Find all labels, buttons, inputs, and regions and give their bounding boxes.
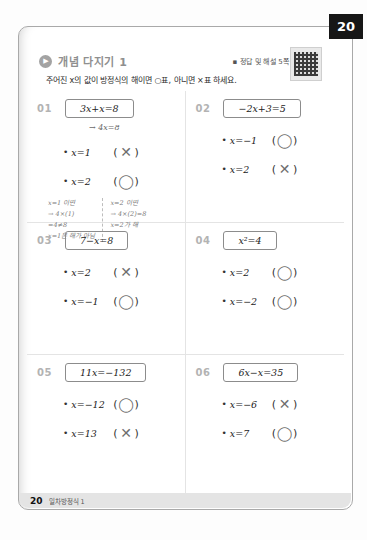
option-row: • x=−1 ( ◯ ): [63, 292, 181, 310]
answer-mark: ◯: [276, 133, 293, 147]
answer-mark: ◯: [118, 397, 135, 411]
option-row: • x=13 ( ✕ ): [63, 424, 181, 442]
problem-header: 06 6x−x=35: [196, 363, 341, 382]
section-title-row: ▶ 개념 다지기 1: [39, 53, 127, 69]
paren-close: ): [293, 266, 297, 279]
paren-close: ): [135, 175, 139, 188]
bullet-icon: •: [63, 147, 68, 157]
paren-close: ): [135, 427, 139, 440]
equation-box: 3x+x=8: [65, 99, 134, 118]
problem-cell-04: 04 x²=4 • x=2 ( ◯ ) • x=−2 ( ◯: [186, 223, 345, 355]
answers-reference-note: ▪ 정답 및 해설 5쪽: [233, 56, 290, 66]
option-row: • x=2 ( ◯ ): [63, 172, 181, 190]
problem-number: 06: [196, 367, 211, 378]
options-list: • x=2 ( ✕ ) • x=−1 ( ◯ ): [63, 263, 181, 310]
option-label: x=2: [71, 176, 113, 187]
bullet-icon: •: [222, 267, 227, 277]
option-row: • x=−1 ( ◯ ): [222, 131, 341, 149]
page-card: ▪ 정답 및 해설 5쪽 ▶ 개념 다지기 1 주어진 x의 값이 방정식의 해…: [18, 26, 353, 510]
option-label: x=1: [71, 147, 113, 158]
options-list: • x=−6 ( ✕ ) • x=7 ( ◯ ): [222, 395, 341, 442]
option-label: x=−6: [230, 399, 272, 410]
equation-box: 6x−x=35: [223, 363, 298, 382]
option-label: x=2: [230, 267, 272, 278]
problem-header: 01 3x+x=8: [37, 99, 181, 118]
answer-mark: ✕: [118, 265, 135, 279]
option-label: x=−1: [71, 296, 113, 307]
problem-header: 03 7−x=8: [37, 231, 181, 250]
bullet-icon: •: [222, 428, 227, 438]
note-line: x=2 이면: [110, 198, 146, 209]
qr-code: [290, 47, 322, 81]
option-label: x=2: [71, 267, 113, 278]
bullet-icon: •: [63, 176, 68, 186]
paren-close: ): [135, 266, 139, 279]
answer-mark: ✕: [118, 145, 135, 159]
answer-mark: ◯: [276, 265, 293, 279]
workbook-page: 20 ▪ 정답 및 해설 5쪽 ▶ 개념 다지기 1 주어진 x의 값이 방정식…: [0, 0, 367, 540]
note-line: x=1 이면: [48, 198, 95, 209]
options-list: • x=−1 ( ◯ ) • x=2 ( ✕ ): [222, 131, 341, 178]
paren-close: ): [135, 398, 139, 411]
work-note: → 4x=8: [89, 123, 181, 132]
answer-mark: ✕: [276, 162, 293, 176]
options-list: • x=1 ( ✕ ) • x=2 ( ◯ ): [63, 143, 181, 190]
equation-box: −2x+3=5: [223, 99, 300, 118]
paren-close: ): [135, 295, 139, 308]
option-row: • x=7 ( ◯ ): [222, 424, 341, 442]
problem-cell-06: 06 6x−x=35 • x=−6 ( ✕ ) • x=7 (: [186, 355, 345, 493]
problem-cell-05: 05 11x=−132 • x=−12 ( ◯ ) • x=13 (: [27, 355, 186, 493]
bullet-icon: •: [222, 296, 227, 306]
footer-chapter-title: 일차방정식 1: [49, 496, 85, 506]
page-corner-tab: 20: [329, 14, 363, 39]
section-title: 개념 다지기 1: [58, 53, 127, 69]
bullet-icon: •: [63, 428, 68, 438]
problem-number: 02: [196, 103, 211, 114]
paren-close: ): [293, 427, 297, 440]
options-list: • x=−12 ( ◯ ) • x=13 ( ✕ ): [63, 395, 181, 442]
option-label: x=−12: [71, 399, 113, 410]
qr-pattern: [294, 52, 318, 76]
instruction-text: 주어진 x의 값이 방정식의 해이면 ○표, 아니면 ×표 하세요.: [46, 74, 237, 85]
answer-mark: ◯: [118, 174, 135, 188]
problem-number: 05: [37, 367, 52, 378]
option-label: x=−2: [230, 296, 272, 307]
option-row: • x=2 ( ◯ ): [222, 263, 341, 281]
answer-mark: ◯: [276, 426, 293, 440]
play-icon: ▶: [39, 55, 52, 68]
option-row: • x=2 ( ✕ ): [63, 263, 181, 281]
option-row: • x=−2 ( ◯ ): [222, 292, 341, 310]
option-label: x=13: [71, 428, 113, 439]
problems-grid: 01 3x+x=8 → 4x=8 • x=1 ( ✕ ) • x=2: [27, 91, 344, 493]
footer-page-number: 20: [30, 496, 43, 506]
problem-number: 03: [37, 235, 52, 246]
note-line: → 4×(1): [48, 209, 95, 220]
bullet-icon: •: [63, 267, 68, 277]
bullet-icon: •: [63, 296, 68, 306]
equation-box: x²=4: [223, 231, 276, 250]
equation-box: 7−x=8: [65, 231, 128, 250]
problem-number: 04: [196, 235, 211, 246]
paren-close: ): [293, 295, 297, 308]
problem-cell-03: 03 7−x=8 • x=2 ( ✕ ) • x=−1 ( ◯: [27, 223, 186, 355]
option-label: x=7: [230, 428, 272, 439]
bullet-icon: •: [222, 135, 227, 145]
answer-mark: ◯: [118, 294, 135, 308]
problem-header: 04 x²=4: [196, 231, 341, 250]
note-line: → 4×(2)=8: [110, 209, 146, 220]
answer-mark: ✕: [118, 426, 135, 440]
page-footer: 20 일차방정식 1: [20, 493, 351, 508]
problem-header: 02 −2x+3=5: [196, 99, 341, 118]
answer-mark: ✕: [276, 397, 293, 411]
option-row: • x=−12 ( ◯ ): [63, 395, 181, 413]
problem-cell-01: 01 3x+x=8 → 4x=8 • x=1 ( ✕ ) • x=2: [27, 91, 186, 223]
paren-close: ): [135, 146, 139, 159]
option-row: • x=−6 ( ✕ ): [222, 395, 341, 413]
paren-close: ): [293, 134, 297, 147]
bullet-icon: •: [222, 399, 227, 409]
option-row: • x=1 ( ✕ ): [63, 143, 181, 161]
option-label: x=−1: [230, 135, 272, 146]
option-row: • x=2 ( ✕ ): [222, 160, 341, 178]
bullet-icon: •: [222, 164, 227, 174]
answer-mark: ◯: [276, 294, 293, 308]
